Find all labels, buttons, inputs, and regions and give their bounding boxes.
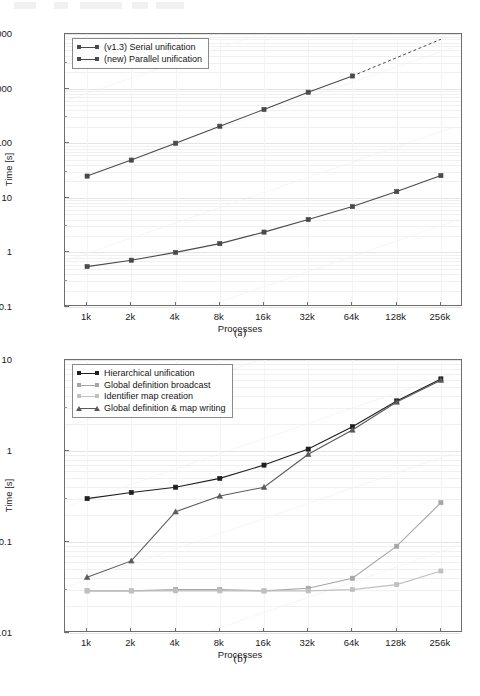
page-header-artifact xyxy=(14,2,184,9)
x-axis-tick-label: 128k xyxy=(385,637,406,648)
x-axis-tick-mark xyxy=(440,302,441,306)
y-axis-minor-tick-mark xyxy=(64,498,67,499)
y-axis-tick-mark xyxy=(64,359,69,360)
data-point-marker-square xyxy=(439,569,443,573)
plot-frame-a xyxy=(64,33,462,306)
x-axis-tick-label: 1k xyxy=(81,311,91,322)
data-point-marker-square xyxy=(129,589,133,593)
y-axis-tick-mark xyxy=(64,306,69,307)
plot-area-b: 1010.10.01 1k2k4k8k16k32k64k128k256k Tim… xyxy=(0,352,480,652)
y-axis-tick-label: 10 xyxy=(1,354,12,365)
data-point-marker-square xyxy=(129,258,133,262)
x-axis-tick-label: 4k xyxy=(170,637,180,648)
y-axis-minor-tick-mark xyxy=(64,225,67,226)
legend-item-label: Hierarchical unification xyxy=(104,368,195,380)
data-point-marker-square xyxy=(306,217,310,221)
data-point-marker-square xyxy=(218,242,222,246)
data-point-marker-square xyxy=(350,205,354,209)
figure-caption-a: (a) xyxy=(0,326,480,338)
legend-item[interactable]: Global definition broadcast xyxy=(77,380,226,392)
y-axis-tick-mark xyxy=(64,251,69,252)
x-axis-tick-mark xyxy=(307,628,308,632)
x-axis-tick-mark xyxy=(219,302,220,306)
data-point-marker-square xyxy=(306,90,310,94)
y-axis-tick-mark xyxy=(64,33,69,34)
x-axis-tick-label: 32k xyxy=(300,637,315,648)
legend-item[interactable]: Global definition & map writing xyxy=(77,403,226,415)
x-axis-tick-mark xyxy=(440,628,441,632)
data-point-marker-square xyxy=(350,588,354,592)
series-line xyxy=(87,503,441,591)
y-axis-tick-mark xyxy=(64,632,69,633)
x-axis-tick-mark xyxy=(175,302,176,306)
plot-area-a: 1000010001001010.1 1k2k4k8k16k32k64k128k… xyxy=(0,26,480,326)
x-axis-tick-mark xyxy=(130,302,131,306)
x-axis-tick-mark xyxy=(351,302,352,306)
y-axis-tick-label: 1000 xyxy=(0,82,12,93)
gridline xyxy=(65,307,461,308)
x-axis-tick-mark xyxy=(396,628,397,632)
x-axis-tick-mark xyxy=(263,302,264,306)
x-axis-tick-mark xyxy=(219,628,220,632)
legend-b[interactable]: Hierarchical unificationGlobal definitio… xyxy=(72,364,233,418)
x-axis-tick-mark xyxy=(86,302,87,306)
y-axis-tick-label: 100 xyxy=(0,137,12,148)
gridline xyxy=(65,633,461,634)
data-point-marker-square xyxy=(218,476,222,480)
legend-marker-square-icon xyxy=(77,55,99,64)
x-axis-tick-label: 128k xyxy=(385,311,406,322)
x-axis-tick-label: 8k xyxy=(214,311,224,322)
data-point-marker-square xyxy=(218,124,222,128)
x-axis-tick-mark xyxy=(130,628,131,632)
x-axis-tick-label: 1k xyxy=(81,637,91,648)
data-point-marker-square xyxy=(395,544,399,548)
legend-marker-square-icon xyxy=(77,392,99,401)
x-axis-tick-label: 16k xyxy=(255,637,270,648)
y-axis-tick-label: 0.01 xyxy=(0,627,12,638)
legend-marker-square-icon xyxy=(77,43,99,52)
legend-item[interactable]: Hierarchical unification xyxy=(77,368,226,380)
legend-item[interactable]: (v1.3) Serial unification xyxy=(77,42,202,54)
legend-a[interactable]: (v1.3) Serial unification(new) Parallel … xyxy=(72,38,209,69)
x-axis-tick-mark xyxy=(307,302,308,306)
y-axis-minor-tick-mark xyxy=(64,407,67,408)
data-point-marker-square xyxy=(85,174,89,178)
data-point-marker-square xyxy=(174,141,178,145)
legend-item-label: (new) Parallel unification xyxy=(104,54,202,66)
y-axis-tick-label: 1 xyxy=(7,445,12,456)
y-axis-minor-tick-mark xyxy=(64,589,67,590)
y-axis-minor-tick-mark xyxy=(64,116,67,117)
figure-a: 1000010001001010.1 1k2k4k8k16k32k64k128k… xyxy=(0,26,480,326)
data-point-marker-square xyxy=(262,589,266,593)
legend-item-label: Global definition & map writing xyxy=(104,403,226,415)
data-point-marker-square xyxy=(395,583,399,587)
data-point-marker-square xyxy=(129,490,133,494)
y-axis-tick-label: 10000 xyxy=(0,28,12,39)
y-axis-minor-tick-mark xyxy=(64,280,67,281)
x-axis-tick-label: 8k xyxy=(214,637,224,648)
y-axis-tick-mark xyxy=(64,541,69,542)
legend-item-label: Identifier map creation xyxy=(104,391,193,403)
x-axis-tick-mark xyxy=(175,628,176,632)
y-axis-minor-tick-mark xyxy=(64,62,67,63)
data-point-marker-square xyxy=(85,589,89,593)
y-axis-tick-mark xyxy=(64,88,69,89)
y-axis-tick-label: 10 xyxy=(1,191,12,202)
data-point-marker-square xyxy=(129,158,133,162)
x-axis-tick-mark xyxy=(351,628,352,632)
y-axis-tick-label: 0.1 xyxy=(0,301,12,312)
x-axis-tick-label: 2k xyxy=(125,311,135,322)
figure-b: 1010.10.01 1k2k4k8k16k32k64k128k256k Tim… xyxy=(0,352,480,652)
legend-item[interactable]: (new) Parallel unification xyxy=(77,54,202,66)
x-axis-tick-label: 256k xyxy=(430,311,451,322)
data-point-marker-square xyxy=(395,190,399,194)
x-axis-tick-mark xyxy=(86,628,87,632)
legend-item[interactable]: Identifier map creation xyxy=(77,391,226,403)
x-axis-tick-label: 2k xyxy=(125,637,135,648)
data-point-marker-square xyxy=(306,589,310,593)
data-point-marker-square xyxy=(439,501,443,505)
legend-marker-square-icon xyxy=(77,381,99,390)
y-axis-label-b: Time [s] xyxy=(3,478,14,511)
y-axis-tick-mark xyxy=(64,450,69,451)
x-axis-tick-label: 16k xyxy=(255,311,270,322)
